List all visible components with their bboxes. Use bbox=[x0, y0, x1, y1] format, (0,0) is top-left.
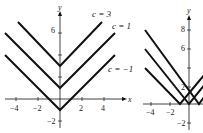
x-tick: −4 bbox=[10, 104, 19, 113]
x-tick: −2 bbox=[166, 108, 175, 117]
x-axis-label: x bbox=[127, 95, 132, 104]
y-axis-label: y bbox=[57, 3, 62, 12]
y-tick: 2 bbox=[181, 83, 185, 92]
y-tick: 6 bbox=[181, 44, 185, 53]
x-tick: 4 bbox=[101, 104, 105, 113]
y-axis-label: y bbox=[186, 6, 191, 15]
charts: y x −4 −2 2 4 6 −2 c = 3 c = 1 c = −1 y … bbox=[0, 0, 203, 133]
legend-cm1: c = −1 bbox=[108, 64, 133, 74]
y-tick: −2 bbox=[177, 119, 186, 128]
legend-c1: c = 1 bbox=[112, 21, 131, 31]
x-tick: −4 bbox=[146, 108, 155, 117]
curve-1 bbox=[145, 30, 203, 104]
y-tick: 8 bbox=[181, 25, 185, 34]
y-tick: −2 bbox=[47, 117, 56, 126]
legend-c3: c = 3 bbox=[92, 9, 112, 19]
y-tick: 6 bbox=[51, 26, 55, 35]
x-tick: 2 bbox=[79, 104, 83, 113]
x-tick: −2 bbox=[33, 104, 42, 113]
